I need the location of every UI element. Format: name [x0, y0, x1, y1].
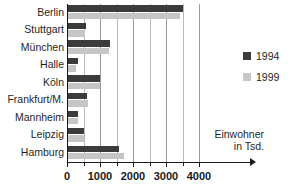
x-tick-3000 — [166, 162, 167, 167]
legend-label-1999: 1999 — [256, 71, 279, 83]
category-label-hamburg: Hamburg — [0, 147, 64, 158]
axis-caption: Einwohner in Tsd. — [190, 128, 264, 152]
bar-1994-stuttgart — [68, 23, 86, 29]
bar-row — [68, 22, 296, 40]
category-label-berlin: Berlin — [0, 7, 64, 18]
x-tick-0 — [67, 162, 68, 167]
bar-1999-stuttgart — [68, 30, 85, 36]
bar-1994-halle — [68, 58, 78, 64]
bar-1994-mannheim — [68, 111, 78, 117]
bar-1999-mannheim — [68, 118, 78, 124]
bar-1999-leipzig — [68, 135, 84, 141]
chart-legend: 19941999 — [243, 50, 279, 92]
bar-1999-k-ln — [68, 83, 100, 89]
population-bar-chart: Einwohnerzahlen ausgewählter Städte Berl… — [0, 0, 296, 187]
bar-1994-m-nchen — [68, 40, 110, 46]
bar-1999-m-nchen — [68, 48, 109, 54]
x-tick-4000 — [199, 162, 200, 167]
bar-1999-frankfurt-m — [68, 100, 88, 106]
category-axis-labels: BerlinStuttgartMünchenHalleKölnFrankfurt… — [0, 4, 64, 162]
bar-1994-hamburg — [68, 146, 119, 152]
axis-caption-line2: in Tsd. — [190, 140, 264, 152]
legend-item-1999[interactable]: 1999 — [243, 71, 279, 83]
x-tick-label-4000: 4000 — [179, 170, 219, 182]
x-tick-2000 — [133, 162, 134, 167]
category-label-k-ln: Köln — [0, 77, 64, 88]
x-tick-minor-2500 — [150, 162, 151, 166]
x-axis-line — [67, 162, 252, 163]
bar-1999-berlin — [68, 13, 180, 19]
x-tick-minor-3500 — [183, 162, 184, 166]
category-label-stuttgart: Stuttgart — [0, 24, 64, 35]
bar-1994-frankfurt-m — [68, 93, 87, 99]
category-label-m-nchen: München — [0, 42, 64, 53]
category-label-mannheim: Mannheim — [0, 112, 64, 123]
x-axis-arrow-icon — [250, 158, 256, 166]
bar-row — [68, 4, 296, 22]
axis-caption-line1: Einwohner — [190, 128, 264, 140]
bar-1999-hamburg — [68, 153, 124, 159]
category-label-leipzig: Leipzig — [0, 129, 64, 140]
x-tick-minor-1500 — [117, 162, 118, 166]
bar-row — [68, 109, 296, 127]
category-label-frankfurt-m: Frankfurt/M. — [0, 94, 64, 105]
legend-item-1994[interactable]: 1994 — [243, 50, 279, 62]
bar-row — [68, 92, 296, 110]
legend-swatch-1999 — [243, 73, 251, 81]
bar-1994-leipzig — [68, 128, 84, 134]
x-tick-1000 — [100, 162, 101, 167]
x-tick-minor-500 — [84, 162, 85, 166]
bar-1994-k-ln — [68, 75, 100, 81]
bar-1994-berlin — [68, 5, 183, 11]
legend-label-1994: 1994 — [256, 50, 279, 62]
legend-swatch-1994 — [243, 52, 251, 60]
category-label-halle: Halle — [0, 59, 64, 70]
bar-1999-halle — [68, 65, 76, 71]
